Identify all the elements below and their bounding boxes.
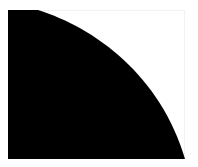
quarter-circle-fill: [8, 10, 185, 159]
quarter-circle-shape: [0, 0, 198, 167]
